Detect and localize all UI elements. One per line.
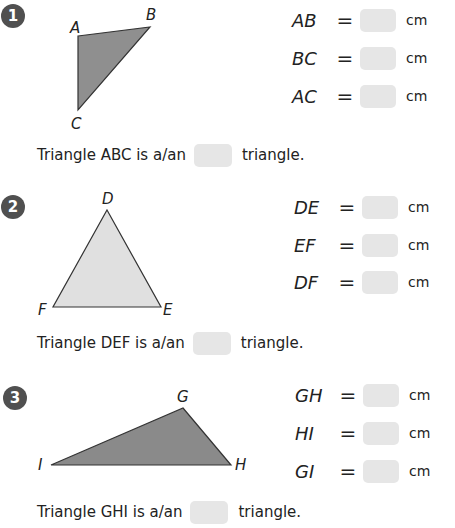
unit-label: cm [409, 463, 430, 479]
answer-box-triangle-abc[interactable] [194, 144, 232, 167]
sentence-prefix: Triangle DEF is a/an [37, 334, 185, 352]
unit-label: cm [408, 199, 429, 215]
vertex-g-label: G [177, 388, 189, 406]
equals-sign: = [334, 46, 356, 70]
vertex-d-label: D [102, 190, 114, 208]
vertex-c-label: C [71, 115, 82, 133]
unit-label: cm [409, 425, 430, 441]
answer-box-hi[interactable] [363, 422, 399, 445]
measurement-ac: AC = cm [292, 84, 427, 108]
segment-label: GI [295, 461, 337, 482]
segment-label: GH [295, 385, 337, 406]
unit-label: cm [408, 237, 429, 253]
answer-box-de[interactable] [362, 196, 398, 219]
classification-sentence-def: Triangle DEF is a/an triangle. [37, 331, 303, 355]
answer-box-df[interactable] [362, 271, 398, 294]
measurement-gh: GH = cm [295, 383, 430, 407]
unit-label: cm [406, 12, 427, 28]
answer-box-gi[interactable] [363, 460, 399, 483]
unit-label: cm [409, 387, 430, 403]
equals-sign: = [336, 270, 358, 294]
answer-box-ab[interactable] [360, 9, 396, 32]
sentence-prefix: Triangle GHI is a/an [37, 503, 182, 521]
sentence-suffix: triangle. [238, 503, 301, 521]
segment-label: HI [295, 423, 337, 444]
measurement-ab: AB = cm [292, 8, 427, 32]
equals-sign: = [336, 233, 358, 257]
equals-sign: = [334, 8, 356, 32]
sentence-prefix: Triangle ABC is a/an [37, 146, 186, 164]
answer-box-ef[interactable] [362, 234, 398, 257]
segment-label: DF [294, 272, 336, 293]
answer-box-gh[interactable] [363, 384, 399, 407]
vertex-h-label: H [235, 456, 246, 474]
segment-label: DE [294, 197, 336, 218]
segment-label: AB [292, 10, 334, 31]
equals-sign: = [337, 383, 359, 407]
vertex-i-label: I [38, 456, 43, 474]
sentence-suffix: triangle. [241, 334, 304, 352]
vertex-f-label: F [38, 301, 47, 319]
classification-sentence-ghi: Triangle GHI is a/an triangle. [37, 500, 301, 524]
answer-box-bc[interactable] [360, 47, 396, 70]
segment-label: EF [294, 235, 336, 256]
sentence-suffix: triangle. [242, 146, 305, 164]
answer-box-ac[interactable] [360, 85, 396, 108]
measurement-de: DE = cm [294, 195, 429, 219]
unit-label: cm [406, 88, 427, 104]
vertex-b-label: B [146, 6, 156, 24]
equals-sign: = [334, 84, 356, 108]
segment-label: AC [292, 86, 334, 107]
measurement-df: DF = cm [294, 270, 429, 294]
unit-label: cm [406, 50, 427, 66]
measurement-gi: GI = cm [295, 459, 430, 483]
vertex-e-label: E [163, 301, 173, 319]
equals-sign: = [337, 459, 359, 483]
vertex-a-label: A [69, 19, 80, 37]
answer-box-triangle-ghi[interactable] [190, 501, 228, 524]
segment-label: BC [292, 48, 334, 69]
measurement-hi: HI = cm [295, 421, 430, 445]
equals-sign: = [337, 421, 359, 445]
equals-sign: = [336, 195, 358, 219]
measurement-bc: BC = cm [292, 46, 427, 70]
unit-label: cm [408, 274, 429, 290]
measurement-ef: EF = cm [294, 233, 429, 257]
answer-box-triangle-def[interactable] [193, 332, 231, 355]
classification-sentence-abc: Triangle ABC is a/an triangle. [37, 143, 305, 167]
